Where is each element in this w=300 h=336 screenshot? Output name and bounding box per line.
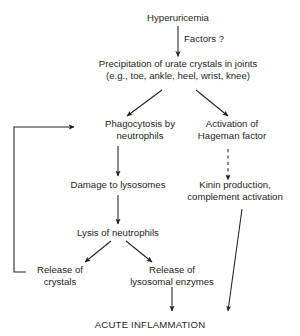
node-hageman-factor-line2: Hageman factor [198, 130, 266, 142]
node-hyperuricemia: Hyperuricemia [147, 12, 209, 24]
node-lysosome-damage: Damage to lysosomes [71, 179, 166, 191]
node-lysis-of-neutrophils-line1: Lysis of neutrophils [77, 227, 159, 238]
node-release-of-crystals: Release of crystals [37, 264, 83, 287]
node-precipitation-line2: (e.g., toe, ankle, heel, wrist, knee) [99, 70, 257, 82]
edge-lysis-to-release-enzymes [126, 241, 152, 262]
node-phagocytosis-line2: neutrophils [105, 130, 175, 142]
node-kinin-production: Kinin production, complement activation [187, 179, 282, 202]
node-release-of-lysosomal-enzymes: Release of lysosomal enzymes [130, 264, 214, 287]
node-hageman-factor: Activation of Hageman factor [198, 118, 266, 141]
node-kinin-production-line1: Kinin production, [199, 179, 270, 190]
flowchart-gout-pathogenesis: Hyperuricemia Precipitation of urate cry… [0, 0, 300, 336]
node-lysosome-damage-line1: Damage to lysosomes [71, 179, 166, 190]
node-hyperuricemia-line1: Hyperuricemia [147, 12, 209, 23]
edge-kinin-to-acute-inflammation [228, 209, 242, 311]
node-phagocytosis: Phagocytosis by neutrophils [105, 118, 175, 141]
node-lysis-of-neutrophils: Lysis of neutrophils [77, 227, 159, 239]
edge-feedback-crystals-to-phagocytosis [14, 127, 74, 272]
node-release-of-crystals-line2: crystals [37, 276, 83, 288]
node-release-of-lysosomal-enzymes-line2: lysosomal enzymes [130, 276, 214, 288]
edge-label-factors: Factors ? [184, 33, 224, 44]
node-release-of-crystals-line1: Release of [37, 264, 83, 275]
terminal-acute-inflammation: ACUTE INFLAMMATION [95, 319, 206, 330]
node-hageman-factor-line1: Activation of [206, 118, 258, 129]
edge-lysis-to-release-crystals [85, 241, 111, 262]
node-release-of-lysosomal-enzymes-line1: Release of [149, 264, 195, 275]
node-precipitation: Precipitation of urate crystals in joint… [99, 58, 257, 81]
edge-precipitation-to-phagocytosis [127, 90, 162, 116]
node-precipitation-line1: Precipitation of urate crystals in joint… [99, 58, 257, 69]
edge-precipitation-to-hageman [196, 90, 228, 116]
node-kinin-production-line2: complement activation [187, 191, 282, 203]
node-phagocytosis-line1: Phagocytosis by [105, 118, 175, 129]
